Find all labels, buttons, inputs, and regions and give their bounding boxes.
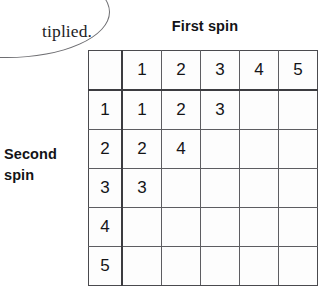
column-header-5: 5 xyxy=(279,51,318,91)
cell-r5-c4[interactable] xyxy=(240,247,279,286)
cell-r4-c1[interactable] xyxy=(122,208,162,247)
cell-r3-c5[interactable] xyxy=(279,169,318,208)
column-header-1: 1 xyxy=(122,51,162,91)
cell-r5-c5[interactable] xyxy=(279,247,318,286)
cell-r3-c1[interactable]: 3 xyxy=(122,169,162,208)
cell-r1-c5[interactable] xyxy=(279,90,318,130)
cell-r3-c2[interactable] xyxy=(162,169,201,208)
cell-r5-c2[interactable] xyxy=(162,247,201,286)
table-row: 4 xyxy=(89,208,318,247)
row-header-4: 4 xyxy=(89,208,123,247)
cell-r3-c3[interactable] xyxy=(201,169,240,208)
cell-r2-c5[interactable] xyxy=(279,130,318,169)
second-spin-label-line2: spin xyxy=(4,165,84,186)
worksheet-figure: tiplied. First spin Second spin 1 2 3 4 … xyxy=(0,0,322,304)
first-spin-label: First spin xyxy=(150,18,260,34)
cell-r2-c1[interactable]: 2 xyxy=(122,130,162,169)
cell-r1-c1[interactable]: 1 xyxy=(122,90,162,130)
cell-r1-c3[interactable]: 3 xyxy=(201,90,240,130)
cell-r5-c1[interactable] xyxy=(122,247,162,286)
speech-bubble-text: tiplied. xyxy=(0,21,92,42)
cell-r3-c4[interactable] xyxy=(240,169,279,208)
table-header-row: 1 2 3 4 5 xyxy=(89,51,318,91)
row-header-1: 1 xyxy=(89,90,123,130)
second-spin-label-line1: Second xyxy=(4,146,57,162)
cell-r5-c3[interactable] xyxy=(201,247,240,286)
cell-r4-c4[interactable] xyxy=(240,208,279,247)
cell-r4-c3[interactable] xyxy=(201,208,240,247)
column-header-3: 3 xyxy=(201,51,240,91)
row-header-2: 2 xyxy=(89,130,123,169)
table-row: 3 3 xyxy=(89,169,318,208)
cell-r1-c2[interactable]: 2 xyxy=(162,90,201,130)
cell-r4-c5[interactable] xyxy=(279,208,318,247)
cell-r4-c2[interactable] xyxy=(162,208,201,247)
grid-corner-cell xyxy=(89,51,123,91)
cell-r1-c4[interactable] xyxy=(240,90,279,130)
table-row: 5 xyxy=(89,247,318,286)
table-row: 1 1 2 3 xyxy=(89,90,318,130)
row-header-5: 5 xyxy=(89,247,123,286)
second-spin-label: Second spin xyxy=(4,144,84,186)
cell-r2-c4[interactable] xyxy=(240,130,279,169)
column-header-2: 2 xyxy=(162,51,201,91)
row-header-3: 3 xyxy=(89,169,123,208)
cell-r2-c2[interactable]: 4 xyxy=(162,130,201,169)
multiplication-grid: 1 2 3 4 5 1 1 2 3 2 2 4 xyxy=(88,50,318,286)
table-row: 2 2 4 xyxy=(89,130,318,169)
column-header-4: 4 xyxy=(240,51,279,91)
cell-r2-c3[interactable] xyxy=(201,130,240,169)
